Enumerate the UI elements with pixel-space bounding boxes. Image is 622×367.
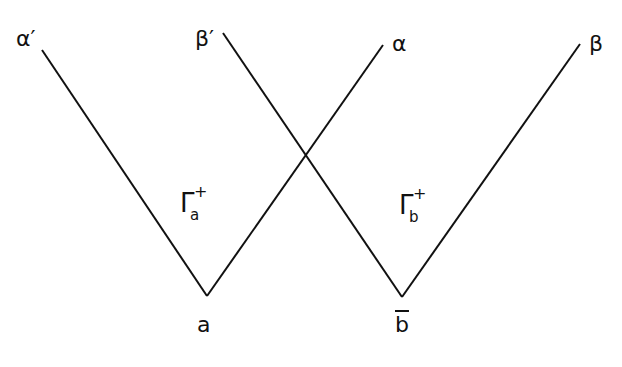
line-beta-prime-to-b xyxy=(223,33,402,297)
label-beta-prime: β′ xyxy=(195,28,214,50)
label-beta: β xyxy=(589,33,603,55)
region-gamma-b: Γ + b xyxy=(399,192,414,218)
label-alpha: α xyxy=(392,33,407,55)
line-alpha-prime-to-a xyxy=(42,50,207,296)
gamma-sup: + xyxy=(194,184,207,200)
line-b-to-beta xyxy=(402,44,580,297)
label-vertex-a: a xyxy=(197,314,210,336)
label-alpha-prime: α′ xyxy=(16,28,36,50)
gamma-sup: + xyxy=(413,186,426,202)
region-gamma-a: Γ + a xyxy=(180,190,195,216)
gamma-sub: b xyxy=(409,210,419,225)
gamma-sub: a xyxy=(190,208,199,223)
diagram-lines xyxy=(0,0,622,367)
line-a-to-alpha xyxy=(207,45,383,296)
label-vertex-b-bar: b xyxy=(395,314,409,336)
